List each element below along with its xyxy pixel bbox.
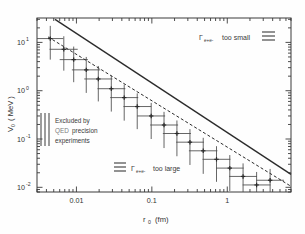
y-tick-exponent: 0 [26,85,29,91]
x-tick-label: 0.1 [147,196,157,205]
too-large-gamma-symbol: Γ [131,165,135,172]
log-log-plot: 0.010.11 10110010-110-2 r 0 (fm) V 0 ( M… [0,0,305,234]
too-small-label: too small [222,34,250,41]
excluded-line-3: experiments [55,137,90,145]
y-tick-exponent: -2 [26,181,31,187]
x-tick-label: 0.01 [69,196,83,205]
y-tick-label: 10 [17,86,25,95]
excluded-line-2b: precision [72,127,98,135]
y-axis-title-unit: ( MeV ) [6,96,15,121]
y-tick-exponent: 1 [26,36,29,42]
excluded-line-1: Excluded by [55,117,91,125]
figure-root: 0.010.11 10110010-110-2 r 0 (fm) V 0 ( M… [0,0,305,234]
too-large-label: too large [153,165,180,173]
y-tick-label: 10 [17,38,25,47]
y-tick-label: 10 [17,135,25,144]
y-axis-title-subscript: 0 [10,124,16,127]
x-axis-title-unit: (fm) [155,215,169,224]
x-tick-label: 1 [225,196,229,205]
too-small-gamma-symbol: Γ [199,34,203,41]
too-large-subscript: e+e- [136,169,146,174]
y-tick-exponent: -1 [26,133,31,139]
y-tick-label: 10 [17,183,25,192]
excluded-line-2a: QED [55,127,69,135]
x-axis-title-subscript: 0 [148,219,151,225]
too-small-subscript: e+e- [204,38,214,43]
